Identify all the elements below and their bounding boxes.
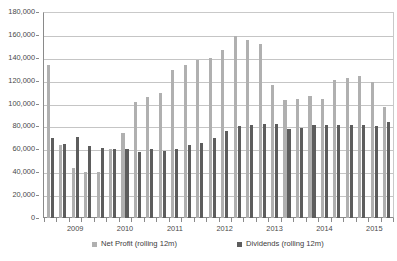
legend-entry-net-profit: Net Profit (rolling 12m) xyxy=(92,239,177,249)
bar-group xyxy=(169,12,181,218)
x-tick-mark xyxy=(44,218,45,222)
x-year-label: 2013 xyxy=(266,224,282,234)
y-tick-mark xyxy=(36,195,39,196)
y-tick-label: 40,000 xyxy=(12,168,35,176)
bar-dividends xyxy=(275,124,278,218)
bar-dividends xyxy=(88,146,91,218)
x-tick-mark xyxy=(219,218,220,222)
bar-dividends xyxy=(312,125,315,218)
y-tick-label: 100,000 xyxy=(8,100,35,108)
x-tick-mark xyxy=(381,218,382,222)
bar-group xyxy=(56,12,68,218)
bar-net-profit xyxy=(196,60,199,218)
bar-series-layer xyxy=(44,12,393,218)
bar-group xyxy=(119,12,131,218)
y-tick-mark xyxy=(36,126,39,127)
bar-group xyxy=(343,12,355,218)
y-tick-mark xyxy=(36,218,39,219)
bar-net-profit xyxy=(371,82,374,218)
x-tick-mark xyxy=(206,218,207,222)
bar-net-profit xyxy=(171,70,174,218)
y-tick-label: 60,000 xyxy=(12,145,35,153)
bar-group xyxy=(194,12,206,218)
bar-group xyxy=(318,12,330,218)
bar-dividends xyxy=(150,149,153,218)
x-tick-mark xyxy=(281,218,282,222)
bar-net-profit xyxy=(271,85,274,218)
bar-dividends xyxy=(375,126,378,218)
bar-group xyxy=(131,12,143,218)
y-tick-label: 180,000 xyxy=(8,8,35,16)
x-tick-mark xyxy=(94,218,95,222)
x-year-label: 2009 xyxy=(67,224,83,234)
y-tick-label: 20,000 xyxy=(12,191,35,199)
bar-net-profit xyxy=(159,93,162,218)
bar-dividends xyxy=(362,125,365,218)
bar-dividends xyxy=(225,131,228,218)
bar-net-profit xyxy=(47,65,50,218)
bar-dividends xyxy=(163,151,166,219)
bar-net-profit xyxy=(234,36,237,218)
x-tick-mark xyxy=(131,218,132,222)
x-year-label: 2012 xyxy=(216,224,232,234)
bar-dividends xyxy=(63,144,66,218)
bar-group xyxy=(306,12,318,218)
bar-group xyxy=(268,12,280,218)
x-tick-mark xyxy=(318,218,319,222)
bar-group xyxy=(356,12,368,218)
bar-net-profit xyxy=(246,40,249,219)
bar-net-profit xyxy=(346,78,349,218)
y-tick-mark xyxy=(36,81,39,82)
bar-net-profit xyxy=(121,133,124,218)
bar-group xyxy=(206,12,218,218)
y-tick-mark xyxy=(36,104,39,105)
bar-net-profit xyxy=(383,107,386,218)
bar-group xyxy=(181,12,193,218)
bar-dividends xyxy=(113,149,116,218)
chart-legend: Net Profit (rolling 12m) Dividends (roll… xyxy=(43,239,394,253)
bar-group xyxy=(231,12,243,218)
bar-group xyxy=(243,12,255,218)
bar-dividends xyxy=(263,124,266,218)
bar-net-profit xyxy=(184,65,187,218)
bar-group xyxy=(94,12,106,218)
legend-label-net-profit: Net Profit (rolling 12m) xyxy=(101,239,177,249)
x-tick-mark xyxy=(356,218,357,222)
y-tick-mark xyxy=(36,172,39,173)
bar-group xyxy=(44,12,56,218)
y-tick-mark xyxy=(36,58,39,59)
x-tick-mark xyxy=(343,218,344,222)
x-tick-mark xyxy=(331,218,332,222)
bar-dividends xyxy=(213,138,216,218)
x-year-label: 2011 xyxy=(167,224,183,234)
y-axis: 020,00040,00060,00080,000100,000120,0001… xyxy=(0,12,39,218)
x-tick-mark xyxy=(169,218,170,222)
legend-entry-dividends: Dividends (rolling 12m) xyxy=(237,239,324,249)
x-tick-mark xyxy=(69,218,70,222)
bar-dividends xyxy=(325,125,328,218)
bar-group xyxy=(106,12,118,218)
y-tick-mark xyxy=(36,149,39,150)
y-tick-label: 120,000 xyxy=(8,77,35,85)
bar-dividends xyxy=(287,129,290,218)
bar-dividends xyxy=(138,152,141,218)
bar-group xyxy=(381,12,393,218)
bar-dividends xyxy=(350,125,353,218)
bar-dividends xyxy=(175,149,178,218)
x-tick-mark xyxy=(56,218,57,222)
x-tick-mark xyxy=(268,218,269,222)
bar-group xyxy=(81,12,93,218)
bar-net-profit xyxy=(321,99,324,218)
y-tick-label: 0 xyxy=(31,214,35,222)
bar-net-profit xyxy=(134,102,137,218)
x-axis-ticks xyxy=(44,218,393,223)
x-tick-mark xyxy=(243,218,244,222)
bar-group xyxy=(144,12,156,218)
bar-group xyxy=(219,12,231,218)
bar-net-profit xyxy=(72,168,75,218)
bar-dividends xyxy=(238,126,241,218)
bar-dividends xyxy=(300,128,303,218)
bar-net-profit xyxy=(283,100,286,218)
x-year-label: 2015 xyxy=(366,224,382,234)
bar-net-profit xyxy=(209,58,212,218)
